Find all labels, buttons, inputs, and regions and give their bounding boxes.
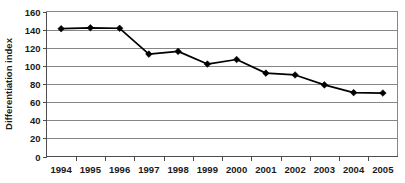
- chart-canvas: 020406080100120140160 199419951996199719…: [0, 0, 405, 183]
- y-tick-label: 60: [30, 97, 41, 108]
- x-tick-label: 1999: [197, 164, 218, 175]
- y-tick-label: 160: [25, 7, 41, 18]
- x-tick-label: 1997: [138, 164, 159, 175]
- line-chart: 020406080100120140160 199419951996199719…: [0, 0, 405, 183]
- x-tick-label: 1996: [109, 164, 130, 175]
- y-tick-label: 40: [30, 115, 41, 126]
- y-tick-label: 20: [30, 133, 41, 144]
- x-tick-label: 2005: [372, 164, 394, 175]
- y-tick-label: 120: [25, 43, 41, 54]
- x-tick-label: 1998: [168, 164, 189, 175]
- x-tick-label: 2000: [226, 164, 247, 175]
- y-tick-label: 0: [35, 152, 40, 163]
- x-tick-label: 2001: [255, 164, 277, 175]
- y-tick-label: 80: [30, 79, 41, 90]
- y-tick-label: 140: [25, 25, 41, 36]
- y-tick-label: 100: [25, 61, 41, 72]
- x-tick-label: 1995: [80, 164, 102, 175]
- x-tick-label: 2002: [285, 164, 306, 175]
- y-axis-title: Differentiation index: [3, 37, 14, 130]
- x-tick-label: 2004: [343, 164, 365, 175]
- x-tick-label: 1994: [51, 164, 73, 175]
- x-tick-label: 2003: [314, 164, 335, 175]
